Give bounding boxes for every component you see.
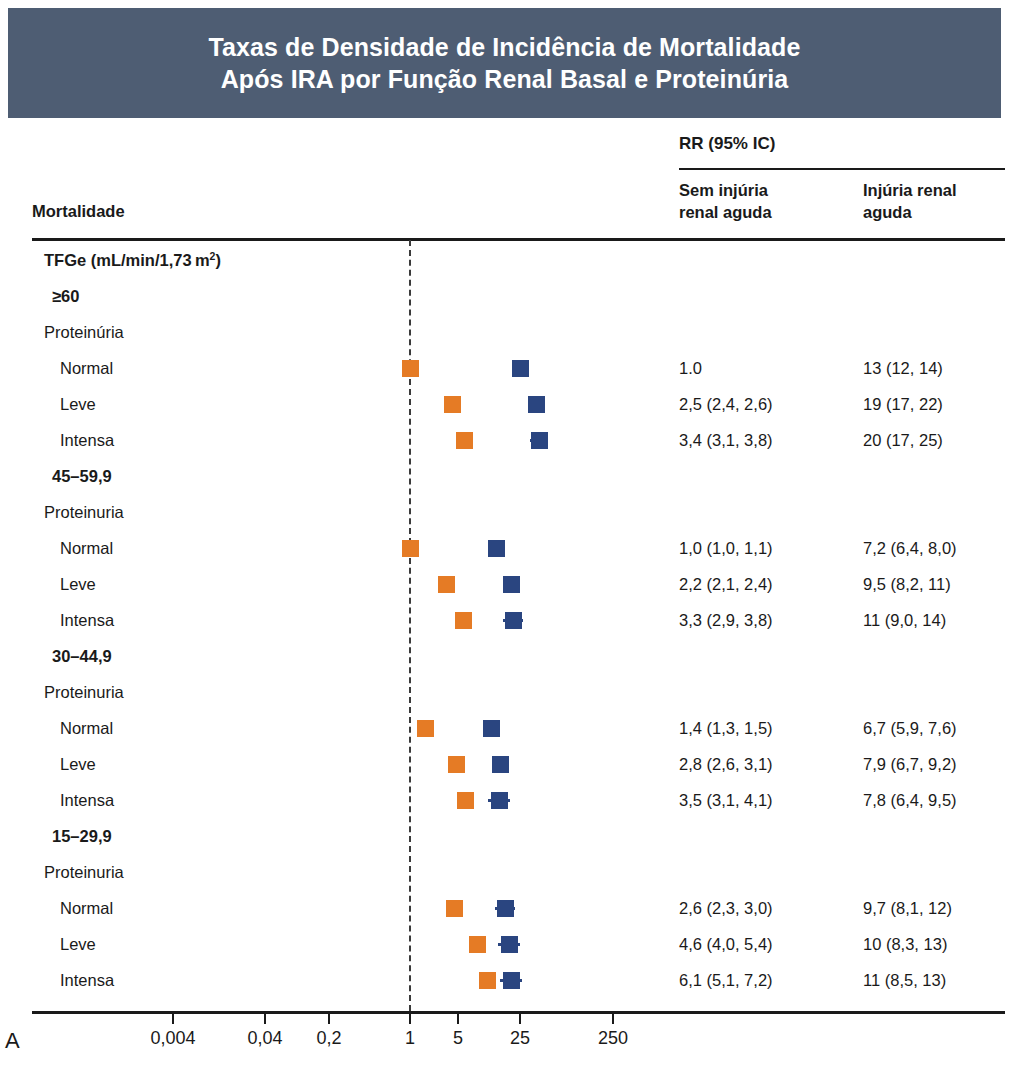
data-point-aki [492, 756, 509, 773]
value-aki: 7,8 (6,4, 9,5) [863, 791, 957, 810]
row-label: 30–44,9 [52, 647, 112, 666]
value-no-aki: 4,6 (4,0, 5,4) [679, 935, 773, 954]
forest-plot-row: Leve4,6 (4,0, 5,4)10 (8,3, 13) [0, 926, 1009, 962]
value-no-aki: 6,1 (5,1, 7,2) [679, 971, 773, 990]
data-point-aki [531, 432, 548, 449]
row-label: Proteinuria [44, 503, 124, 522]
forest-plot-group-row: 30–44,9 [0, 638, 1009, 674]
data-point-aki [503, 972, 520, 989]
forest-plot-group-row: ≥60 [0, 278, 1009, 314]
forest-plot-group-row: Proteinuria [0, 854, 1009, 890]
row-label: Normal [60, 899, 113, 918]
data-point-aki [528, 396, 545, 413]
x-axis-tick [519, 1013, 521, 1024]
value-aki: 6,7 (5,9, 7,6) [863, 719, 957, 738]
value-no-aki: 1.0 [679, 359, 702, 378]
row-label: Intensa [60, 611, 114, 630]
data-point-aki [505, 612, 522, 629]
x-axis-tick-label: 25 [510, 1028, 530, 1049]
row-label: 15–29,9 [52, 827, 112, 846]
forest-plot-group-row: Proteinuria [0, 494, 1009, 530]
column-header-aki: Injúria renal aguda [863, 180, 1008, 224]
rr-column-group-header: RR (95% IC) [679, 134, 775, 154]
value-no-aki: 2,5 (2,4, 2,6) [679, 395, 773, 414]
forest-plot-row: Normal1.013 (12, 14) [0, 350, 1009, 386]
x-axis-tick [328, 1013, 330, 1024]
forest-plot-row: Normal1,4 (1,3, 1,5)6,7 (5,9, 7,6) [0, 710, 1009, 746]
value-no-aki: 3,4 (3,1, 3,8) [679, 431, 773, 450]
row-label: Leve [60, 755, 96, 774]
x-axis-tick-label: 0,04 [247, 1028, 282, 1049]
row-label: Proteinuria [44, 683, 124, 702]
forest-plot-group-row: Proteinúria [0, 314, 1009, 350]
data-point-aki [497, 900, 514, 917]
data-point-no-aki [456, 432, 473, 449]
row-label: TFGe (mL/min/1,73 m2) [44, 250, 221, 271]
forest-plot-row: Intensa3,3 (2,9, 3,8)11 (9,0, 14) [0, 602, 1009, 638]
value-aki: 19 (17, 22) [863, 395, 943, 414]
data-point-no-aki [402, 360, 419, 377]
data-point-aki [501, 936, 518, 953]
forest-plot-row: Leve2,5 (2,4, 2,6)19 (17, 22) [0, 386, 1009, 422]
value-aki: 20 (17, 25) [863, 431, 943, 450]
chart-title-line-2: Após IRA por Função Renal Basal e Protei… [221, 63, 789, 96]
value-aki: 7,9 (6,7, 9,2) [863, 755, 957, 774]
column-header-no-aki: Sem injúria renal aguda [679, 180, 844, 224]
value-aki: 11 (8,5, 13) [863, 971, 946, 990]
data-point-no-aki [444, 396, 461, 413]
column-header-aki-line1: Injúria renal [863, 180, 1008, 202]
value-no-aki: 1,4 (1,3, 1,5) [679, 719, 773, 738]
row-label: Normal [60, 359, 113, 378]
data-point-no-aki [446, 900, 463, 917]
chart-title-banner: Taxas de Densidade de Incidência de Mort… [8, 8, 1001, 118]
x-axis-tick [612, 1013, 614, 1024]
row-label: Leve [60, 575, 96, 594]
x-axis-tick [172, 1013, 174, 1024]
row-label: 45–59,9 [52, 467, 112, 486]
data-point-aki [512, 360, 529, 377]
row-group-header-mortalidade: Mortalidade [32, 202, 125, 221]
row-label: Normal [60, 539, 113, 558]
row-label: Intensa [60, 971, 114, 990]
value-aki: 9,7 (8,1, 12) [863, 899, 952, 918]
x-axis-tick-label: 0,2 [316, 1028, 341, 1049]
row-label: Proteinúria [44, 323, 124, 342]
data-point-no-aki [448, 756, 465, 773]
forest-plot-row: Leve2,2 (2,1, 2,4)9,5 (8,2, 11) [0, 566, 1009, 602]
x-axis-tick-label: 5 [453, 1028, 463, 1049]
data-point-no-aki [455, 612, 472, 629]
data-point-aki [483, 720, 500, 737]
x-axis-tick-label: 250 [598, 1028, 628, 1049]
value-aki: 7,2 (6,4, 8,0) [863, 539, 957, 558]
value-no-aki: 3,3 (2,9, 3,8) [679, 611, 773, 630]
forest-plot-row: Intensa6,1 (5,1, 7,2)11 (8,5, 13) [0, 962, 1009, 998]
forest-plot-group-row: 15–29,9 [0, 818, 1009, 854]
value-no-aki: 2,2 (2,1, 2,4) [679, 575, 773, 594]
row-label: Intensa [60, 791, 114, 810]
x-axis-tick [409, 1013, 411, 1024]
forest-plot-area: TFGe (mL/min/1,73 m2)≥60ProteinúriaNorma… [0, 240, 1009, 1011]
forest-plot-row: Intensa3,5 (3,1, 4,1)7,8 (6,4, 9,5) [0, 782, 1009, 818]
x-axis-tick [457, 1013, 459, 1024]
data-point-no-aki [438, 576, 455, 593]
forest-plot-row: Intensa3,4 (3,1, 3,8)20 (17, 25) [0, 422, 1009, 458]
x-axis-tick-label: 0,004 [150, 1028, 195, 1049]
data-point-no-aki [402, 540, 419, 557]
x-axis-ticks [0, 1013, 1009, 1025]
value-aki: 9,5 (8,2, 11) [863, 575, 951, 594]
x-axis-tick [264, 1013, 266, 1024]
forest-plot-row: Leve2,8 (2,6, 3,1)7,9 (6,7, 9,2) [0, 746, 1009, 782]
row-label: Normal [60, 719, 113, 738]
value-no-aki: 2,6 (2,3, 3,0) [679, 899, 773, 918]
forest-plot-row: Normal1,0 (1,0, 1,1)7,2 (6,4, 8,0) [0, 530, 1009, 566]
data-point-no-aki [457, 792, 474, 809]
value-no-aki: 2,8 (2,6, 3,1) [679, 755, 773, 774]
value-aki: 11 (9,0, 14) [863, 611, 946, 630]
data-point-no-aki [479, 972, 496, 989]
row-label: Proteinuria [44, 863, 124, 882]
row-label: Leve [60, 395, 96, 414]
panel-letter-label: A [5, 1028, 20, 1054]
row-label: Intensa [60, 431, 114, 450]
forest-plot-row: Normal2,6 (2,3, 3,0)9,7 (8,1, 12) [0, 890, 1009, 926]
forest-plot-group-row: Proteinuria [0, 674, 1009, 710]
